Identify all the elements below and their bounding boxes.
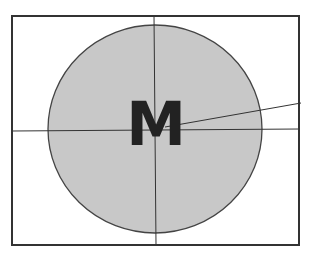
- diagram-canvas: M: [0, 0, 313, 255]
- center-label: M: [126, 89, 186, 159]
